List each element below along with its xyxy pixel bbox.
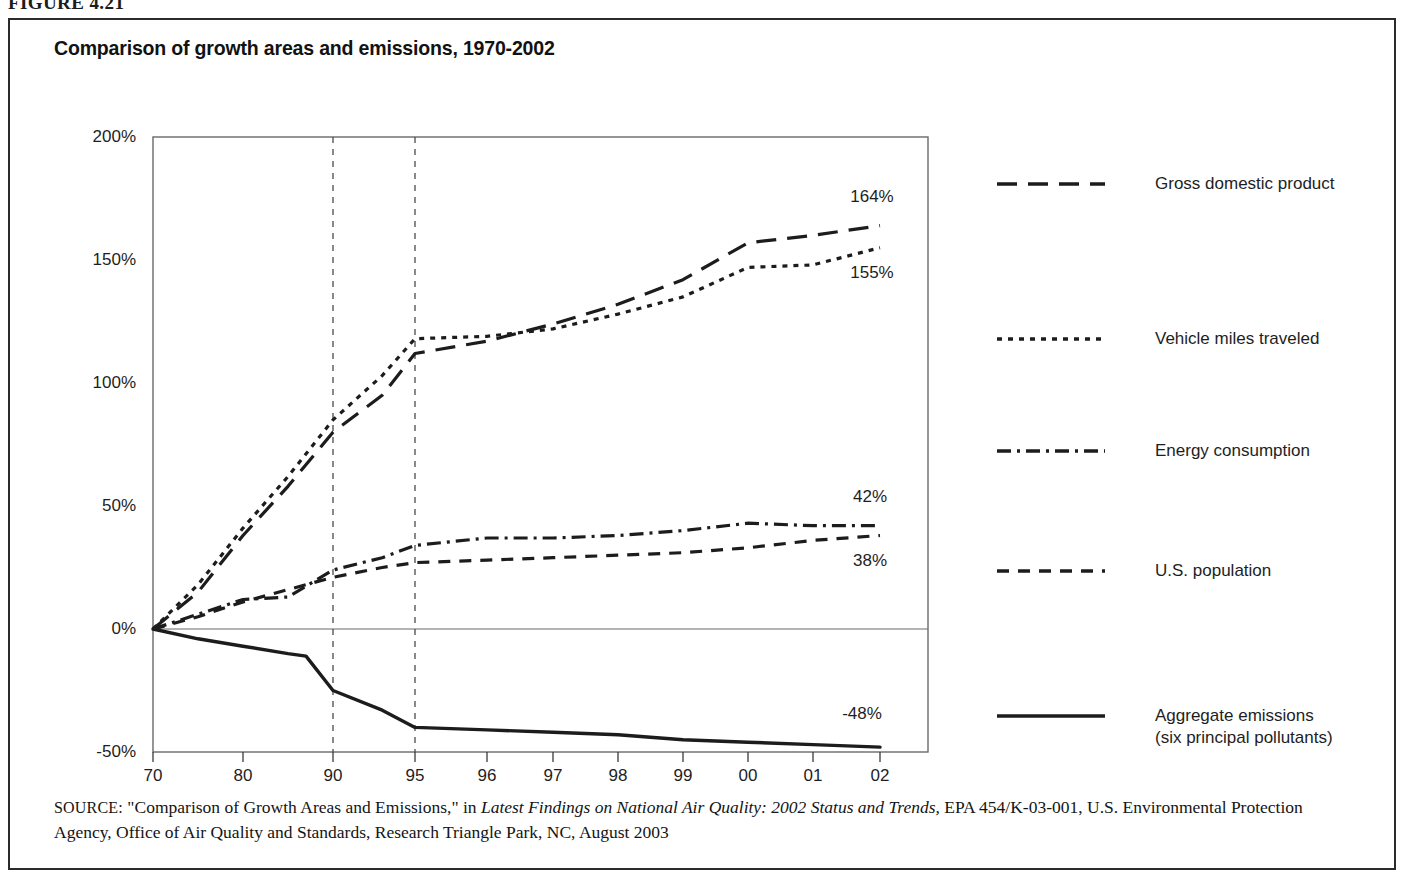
x-tick-label-01: 01 bbox=[788, 766, 838, 786]
axes-layer bbox=[153, 137, 928, 762]
series-end-label-3: 38% bbox=[842, 551, 898, 571]
legend-swatch-dotted-icon bbox=[995, 329, 1107, 349]
series-end-label-1: 155% bbox=[844, 263, 900, 283]
series-end-label-0: 164% bbox=[844, 187, 900, 207]
series-line-2 bbox=[153, 523, 880, 629]
legend-label-4: Aggregate emissions (six principal pollu… bbox=[1155, 705, 1333, 750]
x-tick-label-70: 70 bbox=[128, 766, 178, 786]
series-line-0 bbox=[153, 226, 880, 629]
series-end-label-2: 42% bbox=[842, 487, 898, 507]
legend-label-1: Vehicle miles traveled bbox=[1155, 328, 1319, 350]
legend-line-svg bbox=[995, 329, 1107, 349]
legend-label-0: Gross domestic product bbox=[1155, 173, 1335, 195]
legend-line-svg bbox=[995, 441, 1107, 461]
legend-swatch-dash-dot-icon bbox=[995, 441, 1107, 461]
x-tick-label-95: 95 bbox=[390, 766, 440, 786]
y-tick-label--50%: -50% bbox=[96, 742, 136, 762]
x-tick-label-99: 99 bbox=[658, 766, 708, 786]
legend-line-svg bbox=[995, 174, 1107, 194]
legend-item-2[interactable]: Energy consumption bbox=[995, 440, 1310, 462]
x-tick-label-00: 00 bbox=[723, 766, 773, 786]
series-line-3 bbox=[153, 536, 880, 630]
x-tick-label-90: 90 bbox=[308, 766, 358, 786]
x-tick-label-98: 98 bbox=[593, 766, 643, 786]
plot-border bbox=[153, 137, 928, 752]
y-tick-label-50%: 50% bbox=[102, 496, 136, 516]
x-tick-label-96: 96 bbox=[462, 766, 512, 786]
figure-page: FIGURE 4.21 Comparison of growth areas a… bbox=[0, 0, 1408, 886]
legend-line-svg bbox=[995, 561, 1107, 581]
y-tick-label-150%: 150% bbox=[93, 250, 136, 270]
legend-swatch-medium-dash-icon bbox=[995, 561, 1107, 581]
y-tick-label-100%: 100% bbox=[93, 373, 136, 393]
source-title-italic: Latest Findings on National Air Quality:… bbox=[481, 797, 940, 817]
legend-item-0[interactable]: Gross domestic product bbox=[995, 173, 1335, 195]
series-line-1 bbox=[153, 248, 880, 629]
x-tick-label-02: 02 bbox=[855, 766, 905, 786]
legend-item-4[interactable]: Aggregate emissions (six principal pollu… bbox=[995, 705, 1333, 750]
legend-label-3: U.S. population bbox=[1155, 560, 1271, 582]
source-note: SOURCE: "Comparison of Growth Areas and … bbox=[54, 795, 1354, 845]
y-tick-label-0%: 0% bbox=[111, 619, 136, 639]
legend-label-2: Energy consumption bbox=[1155, 440, 1310, 462]
x-tick-label-80: 80 bbox=[218, 766, 268, 786]
legend-swatch-solid-icon bbox=[995, 706, 1107, 726]
x-tick-label-97: 97 bbox=[528, 766, 578, 786]
legend-item-1[interactable]: Vehicle miles traveled bbox=[995, 328, 1319, 350]
source-part1: "Comparison of Growth Areas and Emission… bbox=[123, 797, 481, 817]
legend-swatch-long-dash-icon bbox=[995, 174, 1107, 194]
legend-item-3[interactable]: U.S. population bbox=[995, 560, 1271, 582]
series-end-label-4: -48% bbox=[834, 704, 890, 724]
series-line-4 bbox=[153, 629, 880, 747]
series-layer bbox=[153, 226, 880, 748]
y-tick-label-200%: 200% bbox=[93, 127, 136, 147]
legend-line-svg bbox=[995, 706, 1107, 726]
source-prefix: SOURCE: bbox=[54, 799, 123, 816]
